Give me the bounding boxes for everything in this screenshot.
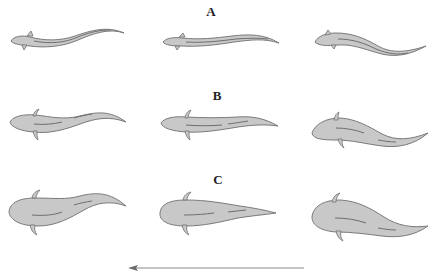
fish-a2 <box>163 33 279 50</box>
fish-b1 <box>10 109 126 140</box>
fish-c2 <box>160 192 276 235</box>
fish-c1 <box>9 190 126 235</box>
fish-a3 <box>315 30 426 55</box>
fish-b2 <box>161 110 278 140</box>
fish-a1 <box>11 29 124 50</box>
direction-arrow <box>128 265 304 271</box>
fish-b3 <box>312 112 428 148</box>
figure-canvas <box>0 0 436 273</box>
fish-c3 <box>312 193 428 241</box>
